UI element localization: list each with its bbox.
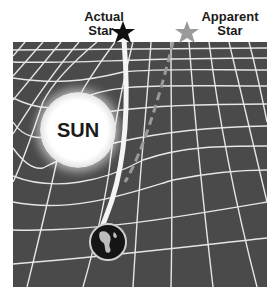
sun: SUN bbox=[40, 92, 116, 168]
light-path bbox=[0, 0, 277, 297]
sun-label: SUN bbox=[57, 119, 99, 142]
apparent-star-icon bbox=[175, 21, 199, 44]
earth-icon bbox=[88, 222, 128, 262]
actual-star-icon bbox=[111, 21, 135, 44]
